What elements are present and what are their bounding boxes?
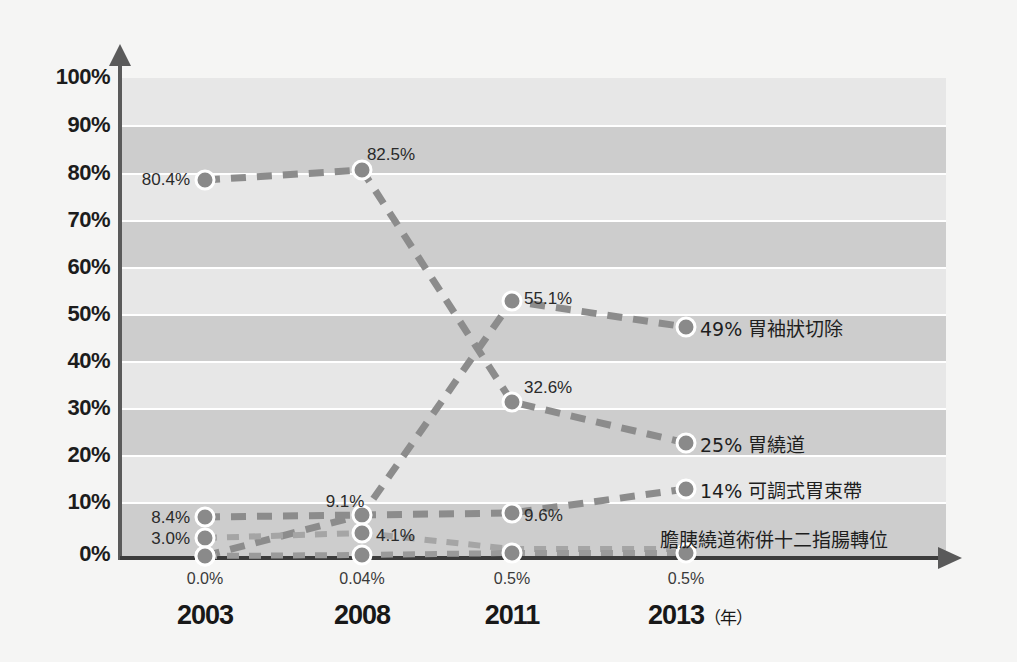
y-axis-line [118,62,122,560]
value-label-4-1: 4.1% [376,526,415,546]
y-tick-100: 100% [0,64,110,90]
x-axis-arrow-icon [938,547,962,569]
y-tick-20: 20% [0,442,110,468]
x-sub-label-2011: 0.5% [494,570,530,588]
x-sub-label-2013: 0.5% [668,570,704,588]
value-label-32-6: 32.6% [524,378,572,398]
band-90-100 [120,78,946,125]
x-axis-line [120,556,942,560]
y-tick-10: 10% [0,489,110,515]
x-year-2008: 2008 [334,600,390,631]
value-label-80-4: 80.4% [142,170,190,190]
y-tick-70: 70% [0,207,110,233]
value-label-82-5: 82.5% [367,145,415,165]
y-tick-0: 0% [0,541,110,567]
band-60-70 [120,222,946,267]
value-label-9-6: 9.6% [524,506,563,526]
band-70-80 [120,175,946,220]
y-tick-60: 60% [0,254,110,280]
end-label-adjustable-band: 14% 可調式胃束帶 [700,476,862,503]
y-tick-30: 30% [0,395,110,421]
x-axis-unit-label: （年） [704,609,752,628]
y-tick-80: 80% [0,160,110,186]
y-axis-ticks: 100% 90% 80% 70% 60% 50% 40% 30% 20% 10%… [0,0,110,662]
value-label-55-1: 55.1% [524,289,572,309]
x-year-2013-value: 2013 [648,600,704,630]
band-20-30 [120,410,946,455]
x-year-2013: 2013（年） [648,600,752,631]
band-80-90 [120,127,946,173]
x-sub-label-2003: 0.0% [187,570,223,588]
value-label-3-0: 3.0% [151,529,190,549]
x-sub-label-2008: 0.04% [339,570,384,588]
end-label-gastric-bypass: 25% 胃繞道 [700,430,805,457]
value-label-8-4: 8.4% [151,508,190,528]
y-axis-arrow-icon [109,44,131,66]
chart-figure: 100% 90% 80% 70% 60% 50% 40% 30% 20% 10%… [0,0,1017,662]
y-tick-90: 90% [0,112,110,138]
value-label-9-1: 9.1% [326,492,365,512]
x-year-2003: 2003 [177,600,233,631]
y-tick-50: 50% [0,301,110,327]
end-label-bpd-ds: 膽胰繞道術併十二指腸轉位 [660,525,888,552]
end-label-sleeve-gastrectomy: 49% 胃袖狀切除 [700,314,843,341]
y-tick-40: 40% [0,348,110,374]
x-year-2011: 2011 [485,600,540,631]
